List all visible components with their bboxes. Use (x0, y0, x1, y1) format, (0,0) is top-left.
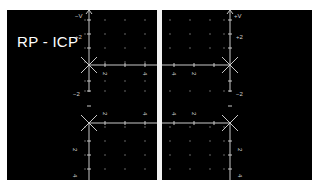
y-tick-4-bottom-right: 4 (237, 174, 243, 178)
x-tick-2-bottom-right: 2 (191, 112, 197, 116)
x-tick-4: 4 (142, 72, 148, 76)
y-tick-plus-2-right: +2 (236, 34, 244, 40)
page-title: RP - ICP (17, 33, 78, 50)
y-tick-2-bottom: 2 (72, 148, 78, 152)
x-tick-2: 2 (102, 72, 108, 76)
grid-dots-bottom-left (84, 126, 145, 169)
x-tick-4-right: 4 (171, 72, 177, 76)
x-tick-2-right: 2 (191, 72, 197, 76)
grid-dots-top-right (169, 19, 224, 91)
y-axis-label-pos-v: +V (234, 13, 242, 19)
axes-left (81, 10, 157, 180)
right-plot-panel: +V +2 −2 4 2 4 2 2 4 (162, 10, 312, 180)
x-tick-4-bottom: 4 (142, 112, 148, 116)
axes-right (162, 10, 238, 180)
left-plot-panel: −V +2 −2 2 4 2 4 2 4 RP - ICP (7, 10, 157, 180)
y-axis-label-neg-v: −V (75, 13, 83, 19)
x-tick-2-bottom: 2 (102, 112, 108, 116)
y-tick-minus-2-right: −2 (236, 91, 244, 97)
grid-dots-bottom-right (169, 126, 224, 169)
y-tick-2-bottom-right: 2 (237, 148, 243, 152)
grid-dots-top-left (84, 19, 145, 91)
right-plot-graphics: +V +2 −2 4 2 4 2 2 4 (162, 10, 312, 180)
y-tick-minus-2: −2 (73, 91, 81, 97)
y-tick-4-bottom: 4 (72, 174, 78, 178)
x-tick-4-bottom-right: 4 (171, 112, 177, 116)
